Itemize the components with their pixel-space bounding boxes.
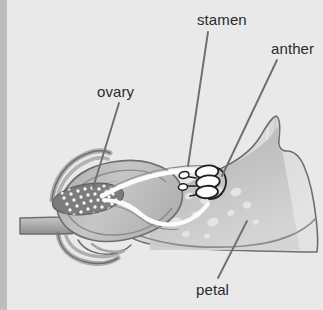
leader-line-stamen <box>188 32 208 166</box>
label-stamen: stamen <box>197 12 247 27</box>
flower-diagram-figure: ovary stamen anther petal <box>0 0 323 310</box>
label-petal: petal <box>196 282 229 297</box>
label-anther: anther <box>271 41 314 56</box>
left-margin-strip <box>0 0 7 310</box>
label-ovary: ovary <box>97 84 134 99</box>
